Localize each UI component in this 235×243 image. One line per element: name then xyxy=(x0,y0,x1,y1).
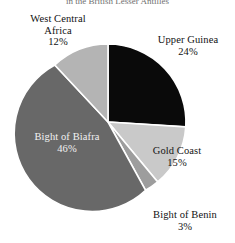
pie-label-bight-of-benin: Bight of Benin 3% xyxy=(137,209,233,232)
pie-label-west-central-africa: West Central Africa 12% xyxy=(6,13,110,48)
pie-label-upper-guinea: Upper Guinea 24% xyxy=(142,34,234,57)
pie-label-gold-coast-percent: 15% xyxy=(134,157,220,169)
pie-label-bight-of-benin-text: Bight of Benin xyxy=(153,209,217,220)
pie-label-bight-of-biafra-text: Bight of Biafra xyxy=(34,131,99,142)
pie-label-bight-of-biafra-percent: 46% xyxy=(12,143,122,155)
pie-label-west-central-africa-line2: Africa xyxy=(6,25,110,37)
pie-label-bight-of-benin-percent: 3% xyxy=(137,221,233,233)
pie-label-west-central-africa-line1: West Central xyxy=(30,13,85,24)
pie-label-bight-of-biafra: Bight of Biafra 46% xyxy=(12,131,122,154)
pie-label-gold-coast: Gold Coast 15% xyxy=(134,145,220,168)
pie-label-upper-guinea-percent: 24% xyxy=(142,46,234,58)
pie-label-upper-guinea-text: Upper Guinea xyxy=(158,34,218,45)
pie-chart-figure: in the British Lesser Antilles Upper Gui… xyxy=(0,0,235,243)
pie-label-west-central-africa-percent: 12% xyxy=(6,36,110,48)
pie-label-gold-coast-text: Gold Coast xyxy=(153,145,202,156)
